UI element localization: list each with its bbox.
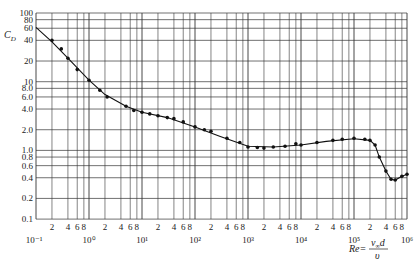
x-minor-tick-label: 2: [156, 222, 161, 232]
data-point: [59, 47, 63, 51]
data-point: [172, 117, 176, 121]
x-minor-tick-label: 8: [82, 222, 87, 232]
x-minor-tick-label: 6: [234, 222, 239, 232]
data-point: [105, 95, 109, 99]
x-decade-label: 10⁴: [295, 235, 307, 245]
data-point: [340, 138, 344, 142]
data-point: [400, 174, 404, 178]
data-point: [384, 169, 388, 173]
data-point: [87, 78, 91, 82]
data-point: [389, 177, 393, 181]
x-decade-label: 10⁰: [83, 235, 96, 245]
data-point: [209, 129, 213, 133]
data-point: [132, 109, 136, 113]
data-point: [66, 56, 70, 60]
y-tick-label: 20: [24, 56, 34, 66]
data-point: [271, 145, 275, 149]
data-point: [363, 138, 367, 142]
data-point: [373, 143, 377, 147]
x-minor-tick-label: 4: [278, 222, 283, 232]
x-minor-tick-label: 2: [262, 222, 267, 232]
x-minor-tick-label: 8: [347, 222, 352, 232]
x-minor-tick-label: 6: [181, 222, 186, 232]
data-point: [140, 110, 144, 114]
x-minor-tick-label: 4: [66, 222, 71, 232]
data-point: [283, 144, 287, 148]
data-points: [50, 39, 409, 182]
x-minor-tick-label: 6: [75, 222, 80, 232]
y-axis-label: CD: [4, 29, 16, 43]
x-decade-label: 10⁶: [401, 235, 413, 245]
data-point: [193, 125, 197, 129]
data-point: [377, 155, 381, 159]
data-point: [238, 141, 242, 145]
y-tick-label: 4.0: [22, 104, 34, 114]
x-minor-tick-label: 8: [241, 222, 246, 232]
data-point: [393, 178, 397, 182]
data-point: [98, 88, 102, 92]
y-tick-label: 0.4: [22, 173, 34, 183]
x-minor-tick-label: 2: [315, 222, 320, 232]
y-axis-ticks: 10080604020108.06.04.02.01.00.80.60.40.2…: [20, 8, 34, 224]
y-tick-label: 0.2: [22, 193, 33, 203]
svg-text:Re=: Re=: [348, 243, 366, 254]
data-point: [294, 142, 298, 146]
x-minor-tick-label: 4: [225, 222, 230, 232]
data-point: [124, 104, 128, 108]
data-point: [203, 128, 207, 132]
y-tick-label: 60: [24, 23, 34, 33]
data-point: [405, 172, 409, 176]
y-tick-label: 6.0: [22, 92, 34, 102]
y-tick-label: 40: [24, 35, 34, 45]
x-minor-tick-label: 6: [287, 222, 292, 232]
data-point: [352, 137, 356, 141]
data-point: [75, 68, 79, 72]
grid: [36, 13, 407, 219]
x-minor-tick-label: 2: [50, 222, 55, 232]
x-minor-tick-label: 8: [135, 222, 140, 232]
data-point: [246, 145, 250, 149]
x-minor-tick-label: 6: [340, 222, 345, 232]
x-decade-label: 10³: [242, 235, 254, 245]
x-minor-tick-label: 4: [119, 222, 124, 232]
x-minor-tick-label: 2: [209, 222, 214, 232]
data-point: [148, 112, 152, 116]
x-minor-tick-label: 8: [294, 222, 299, 232]
x-decade-label: 10¹: [136, 235, 148, 245]
x-decade-label: 10⁻¹: [26, 235, 43, 245]
y-tick-label: 2.0: [22, 125, 34, 135]
data-point: [315, 141, 319, 145]
data-point: [181, 120, 185, 124]
data-point: [331, 139, 335, 143]
data-point: [299, 143, 303, 147]
data-point: [50, 39, 54, 43]
x-axis-ticks: 246824682468246824682468246810⁻¹10⁰10¹10…: [26, 222, 413, 245]
x-minor-tick-label: 8: [188, 222, 193, 232]
drag-coefficient-chart: 10080604020108.06.04.02.01.00.80.60.40.2…: [0, 0, 419, 262]
x-minor-tick-label: 4: [331, 222, 336, 232]
svg-text:v∞d: v∞d: [371, 237, 386, 249]
svg-text:υ: υ: [375, 250, 380, 261]
data-point: [368, 139, 372, 143]
x-decade-label: 10²: [189, 235, 201, 245]
y-tick-label: 0.1: [22, 214, 33, 224]
x-minor-tick-label: 4: [384, 222, 389, 232]
data-point: [256, 146, 260, 150]
x-minor-tick-label: 2: [103, 222, 108, 232]
x-minor-tick-label: 2: [368, 222, 373, 232]
data-point: [262, 146, 266, 150]
x-minor-tick-label: 4: [172, 222, 177, 232]
data-point: [225, 137, 229, 141]
data-point: [156, 114, 160, 118]
x-minor-tick-label: 6: [393, 222, 398, 232]
x-minor-tick-label: 8: [400, 222, 405, 232]
data-point: [165, 116, 169, 120]
x-minor-tick-label: 6: [128, 222, 133, 232]
y-tick-label: 0.6: [22, 161, 34, 171]
